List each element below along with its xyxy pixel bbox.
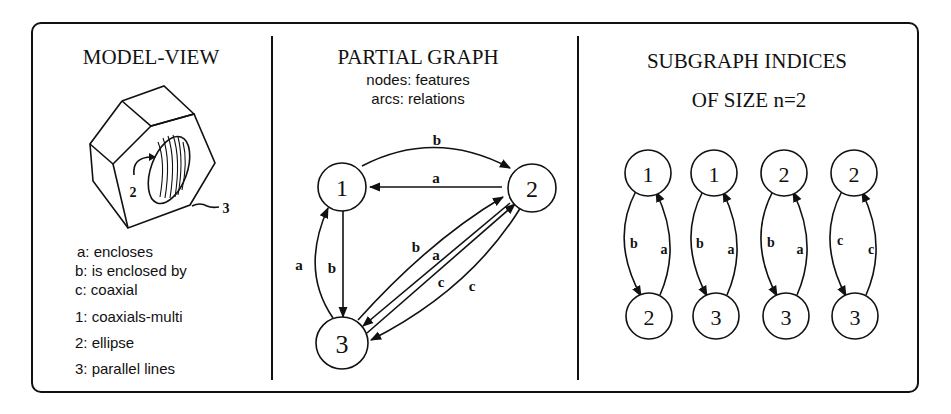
svg-text:a: a [728, 242, 735, 257]
svg-text:c: c [868, 242, 874, 257]
svg-text:3: 3 [711, 305, 722, 330]
subgraph-1-3: b a 1 3 [691, 150, 739, 339]
edge-2-3-c [371, 207, 521, 340]
edge-1-2-b [362, 147, 510, 168]
legend-feature-3: 3: parallel lines [75, 360, 175, 377]
edge-label: a [432, 170, 440, 186]
edge-label: b [433, 132, 441, 148]
subgraph-2-3-coaxial: c c 2 3 [830, 150, 878, 339]
hex-nut-icon: 2 3 [90, 86, 230, 228]
svg-text:2: 2 [644, 305, 655, 330]
partial-graph-subtitle-arcs: arcs: relations [371, 90, 464, 107]
panel-partial-graph: PARTIAL GRAPH nodes: features arcs: rela… [295, 45, 556, 369]
svg-text:3: 3 [336, 330, 349, 359]
features-legend: 1: coaxials-multi 2: ellipse 3: parallel… [75, 308, 183, 377]
legend-feature-1: 1: coaxials-multi [75, 308, 183, 325]
svg-text:b: b [630, 236, 638, 251]
edge-2-3-a [363, 203, 510, 326]
edge-label: a [432, 247, 440, 263]
svg-text:1: 1 [643, 162, 654, 187]
figure-canvas: MODEL-VIEW 2 [0, 0, 951, 414]
subgraph-title-line1: SUBGRAPH INDICES [647, 49, 847, 73]
callout-ellipse-number: 2 [130, 185, 137, 200]
legend-feature-2: 2: ellipse [75, 334, 134, 351]
callout-parallel-number: 3 [223, 201, 230, 216]
svg-text:2: 2 [779, 162, 790, 187]
subgraph-title-line2: OF SIZE n=2 [692, 88, 807, 112]
svg-text:c: c [837, 233, 843, 248]
partial-graph-title: PARTIAL GRAPH [337, 45, 498, 69]
graph-node-3: 3 [316, 317, 368, 369]
svg-text:1: 1 [336, 175, 348, 201]
svg-text:1: 1 [709, 162, 720, 187]
edge-label: c [438, 274, 445, 290]
graph-node-2: 2 [508, 164, 556, 212]
edge-label: b [412, 239, 420, 255]
legend-relation-a: a: encloses [77, 243, 153, 260]
svg-text:a: a [797, 242, 804, 257]
partial-graph-subtitle-nodes: nodes: features [366, 71, 469, 88]
edge-label: a [295, 257, 303, 273]
relations-legend: a: encloses b: is enclosed by c: coaxial [75, 243, 187, 298]
edge-label: c [469, 278, 476, 294]
panel-subgraph-indices: SUBGRAPH INDICES OF SIZE n=2 b a 1 2 b a… [624, 49, 878, 339]
subgraph-1-2: b a 1 2 [624, 150, 672, 339]
legend-relation-b: b: is enclosed by [75, 262, 187, 279]
svg-text:a: a [661, 242, 668, 257]
model-view-title: MODEL-VIEW [83, 45, 220, 69]
svg-text:b: b [767, 235, 775, 250]
legend-relation-c: c: coaxial [75, 281, 138, 298]
edge-3-2-c [367, 204, 515, 333]
subgraph-2-3: b a 2 3 [761, 150, 809, 339]
edge-label: b [328, 260, 336, 276]
svg-text:b: b [696, 236, 704, 251]
svg-text:2: 2 [526, 176, 538, 202]
svg-text:3: 3 [850, 305, 861, 330]
graph-node-1: 1 [318, 163, 366, 211]
svg-text:3: 3 [781, 305, 792, 330]
svg-text:2: 2 [849, 162, 860, 187]
panel-model-view: MODEL-VIEW 2 [75, 45, 230, 377]
